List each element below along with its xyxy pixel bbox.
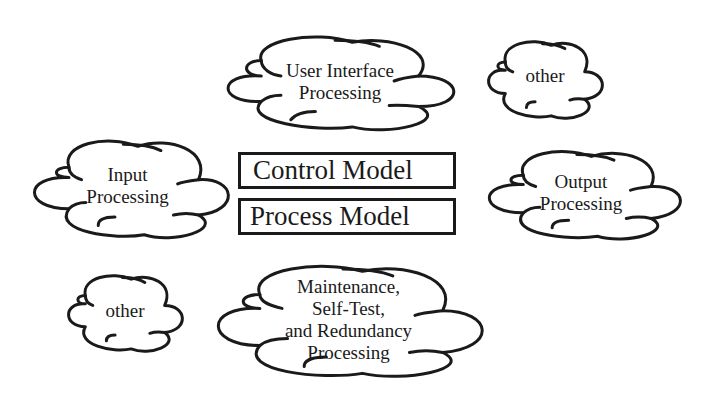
cloud-user-interface-processing: User Interface Processing	[217, 30, 463, 132]
cloud-label: Maintenance, Self-Test, and Redundancy P…	[210, 276, 487, 364]
cloud-label: other	[483, 65, 607, 87]
control-model-label: Control Model	[253, 155, 413, 185]
cloud-label: Input Processing	[23, 164, 232, 208]
cloud-label-line: and Redundancy	[210, 320, 487, 342]
cloud-label-line: other	[483, 65, 607, 87]
cloud-label-line: Processing	[23, 186, 232, 208]
control-model-box: Control Model	[238, 152, 456, 189]
cloud-maintenance-processing: Maintenance, Self-Test, and Redundancy P…	[210, 262, 487, 378]
cloud-label-line: Maintenance,	[210, 276, 487, 298]
cloud-label: User Interface Processing	[217, 60, 463, 104]
process-model-label: Process Model	[250, 201, 410, 231]
cloud-label-line: Processing	[217, 82, 463, 104]
cloud-output-processing: Output Processing	[478, 147, 684, 241]
cloud-label-line: other	[63, 300, 187, 322]
cloud-label-line: Processing	[210, 342, 487, 364]
cloud-other-top: other	[483, 37, 607, 120]
cloud-label: Output Processing	[478, 171, 684, 215]
cloud-other-bottom: other	[63, 271, 187, 353]
cloud-label-line: Self-Test,	[210, 298, 487, 320]
cloud-input-processing: Input Processing	[23, 136, 232, 240]
cloud-label-line: Input	[23, 164, 232, 186]
cloud-label-line: User Interface	[217, 60, 463, 82]
cloud-label-line: Processing	[478, 193, 684, 215]
cloud-label: other	[63, 300, 187, 322]
process-model-box: Process Model	[238, 198, 456, 235]
cloud-label-line: Output	[478, 171, 684, 193]
